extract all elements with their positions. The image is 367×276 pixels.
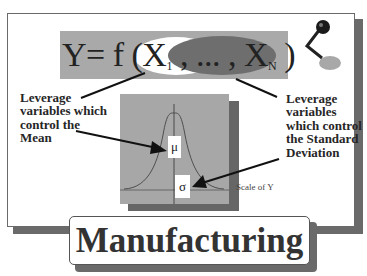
sigma-label: σ	[175, 175, 190, 198]
axis-label: Scale of Y	[236, 182, 274, 192]
pendulum-icon	[307, 20, 341, 70]
title-text: Manufacturing	[69, 216, 310, 265]
mu-label: μ	[168, 136, 181, 158]
stddev-variables-label: Leverage variables which control the Sta…	[286, 92, 366, 159]
mean-variables-label: Leverage variables which control the Mea…	[20, 91, 110, 145]
